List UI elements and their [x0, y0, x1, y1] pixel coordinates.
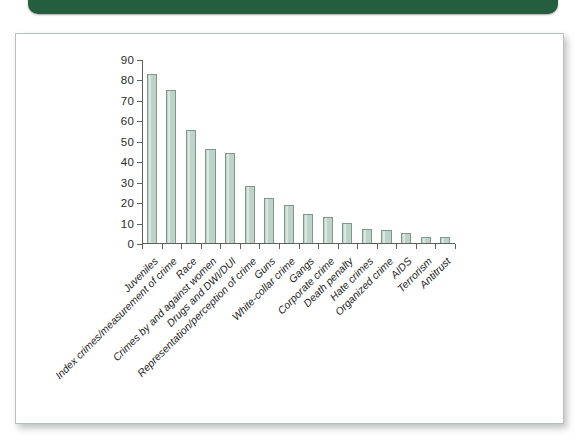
- y-tick-label: 30: [121, 177, 134, 189]
- bar: [323, 217, 333, 243]
- x-tick: [220, 244, 221, 249]
- y-tick-label: 90: [121, 54, 134, 66]
- x-tick: [142, 244, 143, 249]
- y-tick-label: 50: [121, 136, 134, 148]
- x-tick: [318, 244, 319, 249]
- x-tick: [357, 244, 358, 249]
- bar: [303, 214, 313, 243]
- plot-area: 0102030405060708090 JuvenilesIndex crime…: [142, 60, 455, 244]
- bar: [205, 149, 215, 243]
- bar: [440, 237, 450, 243]
- x-tick: [181, 244, 182, 249]
- y-tick: [137, 80, 142, 81]
- y-tick: [137, 60, 142, 61]
- y-tick-label: 60: [121, 115, 134, 127]
- bar: [342, 223, 352, 243]
- bar: [264, 198, 274, 243]
- bar: [225, 153, 235, 243]
- x-tick: [396, 244, 397, 249]
- y-tick-label: 80: [121, 74, 134, 86]
- y-tick-label: 20: [121, 197, 134, 209]
- figure-card: 0102030405060708090 JuvenilesIndex crime…: [15, 33, 564, 424]
- bar: [401, 233, 411, 243]
- x-tick: [377, 244, 378, 249]
- y-tick: [137, 121, 142, 122]
- y-tick-label: 0: [127, 238, 134, 250]
- x-tick: [455, 244, 456, 249]
- bar: [147, 74, 157, 243]
- y-tick: [137, 183, 142, 184]
- y-tick-label: 40: [121, 156, 134, 168]
- x-tick: [279, 244, 280, 249]
- x-tick: [240, 244, 241, 249]
- y-tick: [137, 142, 142, 143]
- y-tick: [137, 162, 142, 163]
- y-tick-label: 70: [121, 95, 134, 107]
- bar: [186, 130, 196, 243]
- bar: [245, 186, 255, 243]
- x-tick: [416, 244, 417, 249]
- x-tick: [259, 244, 260, 249]
- top-banner: [28, 0, 558, 14]
- bar: [421, 237, 431, 243]
- bar-chart: 0102030405060708090 JuvenilesIndex crime…: [16, 34, 565, 425]
- x-tick: [201, 244, 202, 249]
- y-tick: [137, 203, 142, 204]
- x-tick: [162, 244, 163, 249]
- bar: [381, 230, 391, 243]
- bar: [362, 229, 372, 243]
- y-axis-line: [142, 60, 143, 244]
- bar: [166, 90, 176, 243]
- x-tick: [299, 244, 300, 249]
- x-tick: [338, 244, 339, 249]
- x-tick: [435, 244, 436, 249]
- y-tick: [137, 224, 142, 225]
- y-tick-label: 10: [121, 218, 134, 230]
- bar: [284, 205, 294, 243]
- y-tick: [137, 101, 142, 102]
